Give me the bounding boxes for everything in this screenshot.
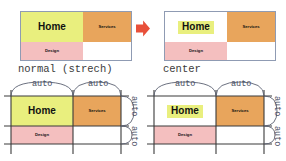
cell-design-label: Design — [35, 133, 49, 137]
cell-services-label: Services — [98, 25, 115, 29]
column-track-label-2: auto — [231, 80, 251, 89]
cell-services: Services — [73, 96, 121, 126]
panel-tracks-center: auto auto auto auto — [143, 80, 286, 161]
cell-design-label: Design — [189, 49, 203, 53]
cell-design: Design — [11, 126, 73, 144]
cell-home: Home — [154, 96, 216, 126]
caption-center: center — [163, 64, 201, 75]
cell-home-label: Home — [167, 105, 203, 118]
column-track-label-1: auto — [32, 80, 52, 89]
row-track-label-2: auto — [130, 126, 139, 146]
cell-home-label: Home — [178, 21, 214, 34]
cell-services-label: Services — [242, 25, 259, 29]
cell-home: Home — [165, 12, 227, 42]
column-track-label-1: auto — [175, 80, 195, 89]
cell-design: Design — [21, 42, 83, 60]
cell-services: Services — [227, 12, 275, 42]
caption-normal-stretch: normal (strech) — [18, 64, 113, 75]
cell-services-label: Services — [88, 109, 105, 113]
column-track-label-2: auto — [88, 80, 108, 89]
cell-home: Home — [21, 12, 83, 42]
row-track-label-2: auto — [273, 126, 282, 146]
cell-home-label: Home — [28, 106, 56, 116]
cell-design-label: Design — [178, 133, 192, 137]
row-track-label-1: auto — [273, 96, 282, 116]
cell-home: Home — [11, 96, 73, 126]
cell-design: Design — [165, 42, 227, 60]
cell-design-label: Design — [45, 49, 59, 53]
row-track-label-1: auto — [130, 96, 139, 116]
cell-services: Services — [216, 96, 264, 126]
diagram-canvas: Home Services Design normal (strech) Hom… — [0, 0, 286, 161]
panel-tracks-normal-stretch: auto auto auto auto — [0, 80, 143, 161]
cell-services-label: Services — [231, 109, 248, 113]
right-arrow-icon — [135, 19, 151, 38]
cell-design: Design — [154, 126, 216, 144]
cell-empty — [227, 42, 275, 60]
cell-home-label: Home — [38, 22, 66, 32]
cell-services: Services — [83, 12, 131, 42]
panel-center: Home Services Design — [164, 11, 276, 61]
panel-normal-stretch: Home Services Design — [20, 11, 132, 61]
cell-empty — [83, 42, 131, 60]
